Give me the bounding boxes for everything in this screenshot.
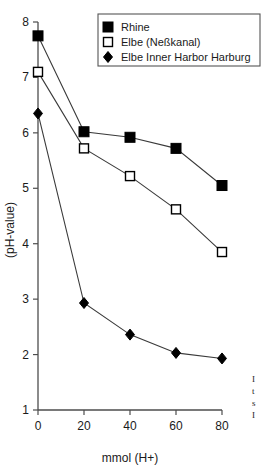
y-tick-label: 5 bbox=[22, 181, 29, 195]
legend-marker bbox=[104, 38, 113, 47]
y-tick-label: 1 bbox=[22, 403, 29, 417]
x-tick-label: 40 bbox=[123, 419, 137, 433]
y-tick-label: 4 bbox=[22, 237, 29, 251]
data-point bbox=[80, 144, 89, 153]
x-axis-title: mmol (H+) bbox=[102, 451, 158, 465]
figure-caption: ItsI bbox=[252, 374, 256, 420]
series-polyline bbox=[38, 113, 222, 358]
x-axis-ticks: 020406080 bbox=[35, 410, 229, 433]
data-point bbox=[171, 143, 181, 153]
legend-label: Elbe Inner Harbor Harburg bbox=[121, 51, 251, 63]
data-point bbox=[172, 347, 181, 358]
data-point bbox=[79, 127, 89, 137]
caption-line: I bbox=[252, 410, 255, 420]
x-tick-label: 20 bbox=[77, 419, 91, 433]
data-point bbox=[217, 181, 227, 191]
data-point bbox=[80, 298, 89, 309]
caption-line: I bbox=[252, 374, 255, 384]
series-elbe-ne-kanal bbox=[34, 67, 227, 256]
data-point bbox=[218, 353, 227, 364]
x-tick-label: 60 bbox=[169, 419, 183, 433]
data-point bbox=[218, 248, 227, 257]
y-tick-label: 3 bbox=[22, 292, 29, 306]
data-point bbox=[34, 67, 43, 76]
legend-label: Elbe (Neßkanal) bbox=[121, 36, 200, 48]
series-elbe-inner-harbor-harburg bbox=[34, 108, 227, 364]
caption-line: t bbox=[252, 386, 255, 396]
caption-line: s bbox=[252, 398, 256, 408]
data-point bbox=[126, 172, 135, 181]
ph-titration-chart: 12345678 020406080 mmol (H+) (pH-value) … bbox=[0, 0, 262, 467]
legend-marker bbox=[103, 22, 113, 32]
y-tick-label: 7 bbox=[22, 70, 29, 84]
y-tick-label: 6 bbox=[22, 126, 29, 140]
y-tick-label: 8 bbox=[22, 15, 29, 29]
data-point bbox=[126, 329, 135, 340]
chart-legend: RhineElbe (Neßkanal)Elbe Inner Harbor Ha… bbox=[98, 14, 260, 66]
y-tick-label: 2 bbox=[22, 348, 29, 362]
legend-label: Rhine bbox=[121, 21, 150, 33]
data-point bbox=[34, 108, 43, 119]
y-axis-title: (pH-value) bbox=[3, 202, 17, 258]
x-tick-label: 0 bbox=[35, 419, 42, 433]
chart-canvas: 12345678 020406080 mmol (H+) (pH-value) … bbox=[0, 0, 262, 467]
series-layer bbox=[33, 31, 227, 364]
data-point bbox=[172, 205, 181, 214]
x-tick-label: 80 bbox=[215, 419, 229, 433]
data-point bbox=[125, 132, 135, 142]
data-point bbox=[33, 31, 43, 41]
